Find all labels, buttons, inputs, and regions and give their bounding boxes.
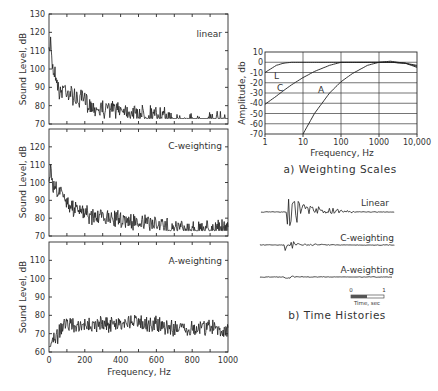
svg-text:1000: 1000 <box>218 356 238 365</box>
time-label-linear: Linear <box>361 198 389 208</box>
svg-text:10: 10 <box>298 138 308 147</box>
panel-label-linear: linear <box>197 29 223 39</box>
svg-text:10,000: 10,000 <box>403 138 431 147</box>
svg-text:90: 90 <box>35 293 45 302</box>
spectrum-panel-a-weighting: A-weighting 11010090807060 0200400600800… <box>30 242 238 365</box>
svg-text:100: 100 <box>30 179 45 188</box>
svg-text:0: 0 <box>258 58 263 67</box>
svg-text:100: 100 <box>333 138 348 147</box>
scale-end: 1 <box>382 287 386 293</box>
svg-text:110: 110 <box>30 256 45 265</box>
x-axis-label-spectra: Frequency, Hz <box>107 367 171 377</box>
weighting-x-axis-label: Frequency, Hz <box>310 148 374 158</box>
svg-text:-70: -70 <box>250 130 263 139</box>
svg-text:-60: -60 <box>250 120 263 129</box>
svg-text:1000: 1000 <box>369 138 389 147</box>
svg-text:80: 80 <box>35 102 45 111</box>
weighting-x-ticks: 110100100010,000 <box>262 134 431 147</box>
time-label-a-weighting: A-weighting <box>341 265 394 275</box>
curve-label-l: L <box>274 71 279 81</box>
svg-text:800: 800 <box>185 356 200 365</box>
time-histories: Linear C-weighting A-weighting 0 1 Time,… <box>260 198 394 306</box>
svg-text:100: 100 <box>30 65 45 74</box>
curve-label-a: A <box>318 85 325 95</box>
svg-text:60: 60 <box>35 348 45 357</box>
spectrum-panel-c-weighting: C-weighting 120110100908070 <box>30 129 228 241</box>
panel-label-c-weighting: C-weighting <box>168 141 222 151</box>
svg-text:-40: -40 <box>250 99 263 108</box>
curve-label-c: C <box>277 83 283 93</box>
panel-label-a-weighting: A-weighting <box>169 256 222 266</box>
svg-text:80: 80 <box>35 311 45 320</box>
x-ticks-frequency: 02004006008001000 <box>46 356 238 365</box>
y-ticks-linear: 130120110100908070 <box>30 10 228 129</box>
svg-text:100: 100 <box>30 275 45 284</box>
svg-text:120: 120 <box>30 143 45 152</box>
time-trace-a-weighting <box>260 276 392 278</box>
time-label-c-weighting: C-weighting <box>340 233 394 243</box>
spectrum-trace-c-weighting <box>49 164 228 230</box>
svg-text:110: 110 <box>30 47 45 56</box>
svg-text:-10: -10 <box>250 69 263 78</box>
caption-time-histories: b) Time Histories <box>288 309 386 321</box>
svg-text:90: 90 <box>35 83 45 92</box>
svg-text:1: 1 <box>262 138 267 147</box>
svg-text:110: 110 <box>30 161 45 170</box>
scale-label: Time, sec <box>353 300 380 306</box>
svg-text:130: 130 <box>30 10 45 19</box>
y-axis-label-c: Sound Level, dB <box>18 146 28 219</box>
svg-text:70: 70 <box>35 120 45 129</box>
scale-start: 0 <box>349 287 353 293</box>
weighting-grid <box>265 52 417 134</box>
weighting-scales-chart: L C A 100-10-20-30-40-50-60-70 110100100… <box>250 48 431 147</box>
svg-text:0: 0 <box>46 356 51 365</box>
svg-text:80: 80 <box>35 214 45 223</box>
svg-text:400: 400 <box>113 356 128 365</box>
svg-text:-20: -20 <box>250 79 263 88</box>
svg-text:90: 90 <box>35 196 45 205</box>
y-axis-label-linear: Sound Level, dB <box>18 33 28 106</box>
svg-text:-30: -30 <box>250 89 263 98</box>
svg-text:70: 70 <box>35 330 45 339</box>
time-scale-bar: 0 1 Time, sec <box>349 287 386 306</box>
weighting-y-axis-label: Amplitude, db <box>237 61 247 125</box>
svg-text:120: 120 <box>30 28 45 37</box>
svg-text:200: 200 <box>77 356 92 365</box>
svg-text:-50: -50 <box>250 110 263 119</box>
svg-text:10: 10 <box>253 48 263 57</box>
spectrum-panel-linear: linear 130120110100908070 <box>30 10 228 129</box>
curve-a <box>303 61 417 134</box>
spectrum-trace-linear <box>49 37 228 119</box>
spectrum-trace-a-weighting <box>49 315 228 346</box>
figure-canvas: linear 130120110100908070 C-weighting 12… <box>0 0 438 391</box>
weighting-y-ticks: 100-10-20-30-40-50-60-70 <box>250 48 263 139</box>
y-axis-label-a: Sound Level, dB <box>18 261 28 334</box>
caption-weighting-scales: a) Weighting Scales <box>283 163 396 175</box>
svg-text:70: 70 <box>35 232 45 241</box>
svg-text:600: 600 <box>149 356 164 365</box>
